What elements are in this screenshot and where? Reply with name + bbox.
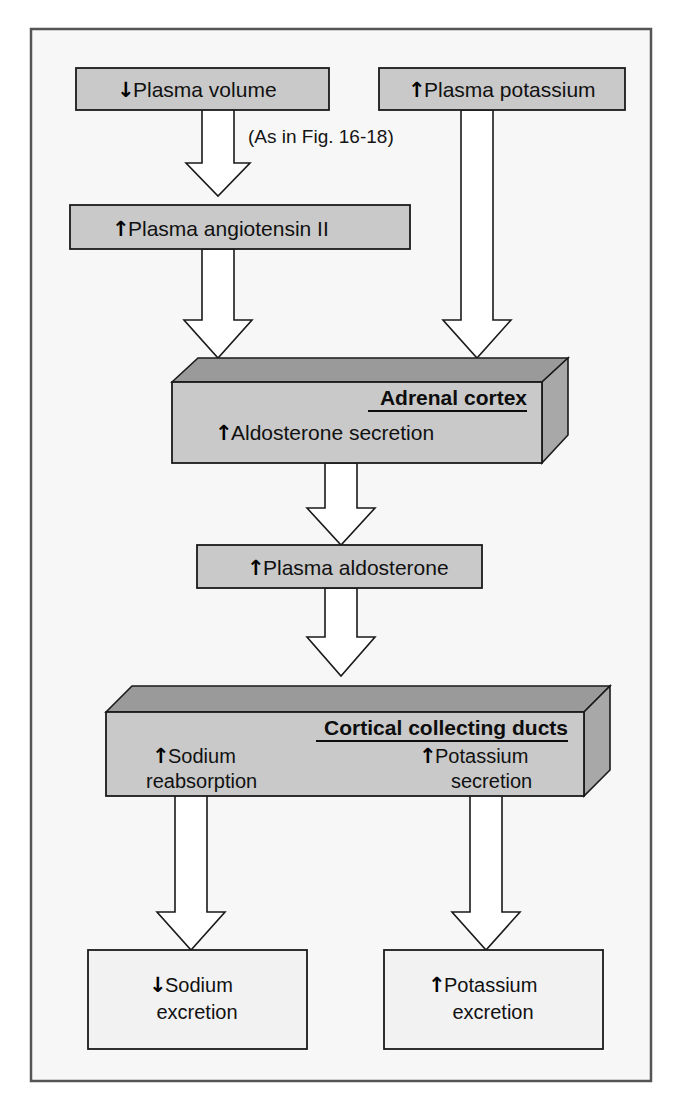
ducts-potassium-direction-icon: ↑ [419,744,437,768]
adrenal-cortex-direction-icon: ↑ [215,421,233,445]
node-collecting-ducts[interactable]: Cortical collecting ducts ↑ Sodium reabs… [106,686,610,796]
figure-reference-note: (As in Fig. 16-18) [248,126,394,147]
plasma-aldosterone-direction-icon: ↑ [247,556,265,580]
aldosterone-flowchart: ↓ Plasma volume ↑ Plasma potassium (As i… [0,0,684,1110]
node-plasma-potassium[interactable]: ↑ Plasma potassium [379,68,625,110]
ducts-potassium-line2: secretion [451,770,532,792]
potassium-excretion-line1: Potassium [444,974,537,996]
potassium-excretion-box[interactable] [384,950,603,1049]
plasma-aldosterone-label: Plasma aldosterone [263,556,449,579]
plasma-volume-direction-icon: ↓ [117,78,135,102]
node-adrenal-cortex[interactable]: Adrenal cortex ↑ Aldosterone secretion [172,358,568,463]
sodium-excretion-box[interactable] [88,950,307,1049]
plasma-angiotensin-direction-icon: ↑ [112,217,130,241]
potassium-excretion-direction-icon: ↑ [428,973,446,997]
node-plasma-aldosterone[interactable]: ↑ Plasma aldosterone [197,545,482,588]
plasma-potassium-label: Plasma potassium [424,78,596,101]
ducts-sodium-line2: reabsorption [146,770,257,792]
ducts-potassium-line1: Potassium [435,745,528,767]
adrenal-cortex-label: Aldosterone secretion [231,421,434,444]
node-sodium-excretion[interactable]: ↓ Sodium excretion [88,950,307,1049]
potassium-excretion-line2: excretion [452,1001,533,1023]
node-potassium-excretion[interactable]: ↑ Potassium excretion [384,950,603,1049]
plasma-volume-label: Plasma volume [133,78,277,101]
adrenal-cortex-top-face [172,358,568,382]
plasma-angiotensin-label: Plasma angiotensin II [128,217,329,240]
sodium-excretion-line2: excretion [156,1001,237,1023]
collecting-ducts-title: Cortical collecting ducts [324,716,568,739]
plasma-potassium-direction-icon: ↑ [408,78,426,102]
node-plasma-volume[interactable]: ↓ Plasma volume [76,68,329,110]
ducts-sodium-line1: Sodium [168,745,236,767]
ducts-sodium-direction-icon: ↑ [152,744,170,768]
adrenal-cortex-title: Adrenal cortex [380,386,527,409]
node-plasma-angiotensin[interactable]: ↑ Plasma angiotensin II [70,205,410,249]
sodium-excretion-direction-icon: ↓ [149,973,167,997]
sodium-excretion-line1: Sodium [165,974,233,996]
collecting-ducts-top-face [106,686,610,712]
figure-container: ↓ Plasma volume ↑ Plasma potassium (As i… [0,0,684,1110]
